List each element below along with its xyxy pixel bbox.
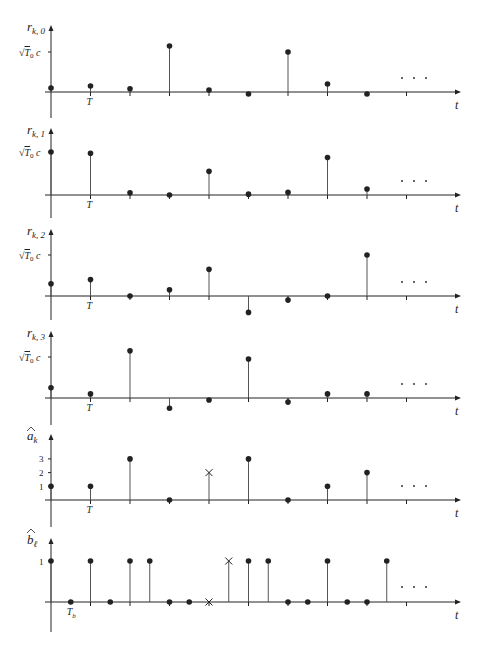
y-tick-label: √T0 c (19, 250, 41, 263)
sample-dot (384, 558, 390, 564)
sample-dot (167, 287, 173, 293)
sample-dot (186, 599, 192, 605)
y-axis-arrow-icon (49, 128, 54, 134)
ellipsis-dot (413, 586, 415, 588)
sample-dot (246, 310, 252, 316)
sample-dot (364, 91, 370, 97)
sample-dot (285, 297, 291, 303)
sample-dot (68, 599, 74, 605)
ellipsis-dot (401, 485, 403, 487)
sample-dot (127, 348, 133, 354)
sample-dot (48, 149, 54, 155)
ellipsis-dot (425, 180, 427, 182)
sample-dot (167, 405, 173, 411)
x-axis-label: t (455, 98, 459, 112)
y-tick-label: √T0 c (19, 352, 41, 365)
x-axis-label: t (455, 608, 459, 622)
sample-dot (167, 599, 173, 605)
sample-dot (88, 83, 94, 89)
sample-dot (206, 397, 212, 403)
ellipsis-dot (413, 485, 415, 487)
sample-dot (285, 497, 291, 503)
sample-dot (305, 599, 311, 605)
sample-dot (127, 293, 133, 299)
sample-dot (364, 470, 370, 476)
y-axis-label: rk, 3 (27, 325, 46, 342)
panel-b_hat_l: tTbbℓ1 (27, 529, 461, 632)
sample-dot (147, 558, 153, 564)
y-axis-label: rk, 0 (27, 19, 46, 36)
sample-dot (48, 385, 54, 391)
sample-dot (364, 391, 370, 397)
x-axis-arrow-icon (455, 193, 461, 198)
x-tick-label: T (87, 199, 94, 210)
sample-dot (206, 169, 212, 175)
ellipsis-dot (401, 586, 403, 588)
ellipsis-dot (413, 77, 415, 79)
y-tick-label: √T0 c (19, 47, 41, 60)
ellipsis-dot (401, 383, 403, 385)
sample-dot (364, 599, 370, 605)
y-axis-arrow-icon (49, 25, 54, 31)
sample-dot (325, 391, 331, 397)
y-axis-arrow-icon (49, 331, 54, 337)
y-axis-arrow-icon (49, 434, 54, 440)
sample-dot (48, 484, 54, 490)
y-tick-label: 1 (39, 482, 44, 492)
ellipsis-dot (401, 77, 403, 79)
sample-dot (167, 192, 173, 198)
sample-dot (88, 150, 94, 156)
x-axis-label: t (455, 302, 459, 316)
sample-dot (246, 191, 252, 197)
panel-a_hat_k: tTak123 (27, 427, 461, 527)
panel-r_k0: tTrk, 0√T0 c (19, 19, 461, 118)
sample-dot (246, 356, 252, 362)
sample-dot (325, 293, 331, 299)
ellipsis-dot (425, 485, 427, 487)
sample-dot (246, 456, 252, 462)
y-tick-label: 1 (39, 557, 44, 567)
sample-dot (88, 277, 94, 283)
x-tick-label: Tb (67, 606, 77, 620)
y-axis-label: rk, 2 (27, 223, 46, 240)
sample-dot (127, 456, 133, 462)
sample-dot (344, 599, 350, 605)
ellipsis-dot (401, 281, 403, 283)
sample-dot (88, 391, 94, 397)
ellipsis-dot (413, 281, 415, 283)
panel-r_k3: tTrk, 3√T0 c (19, 325, 461, 425)
ellipsis-dot (413, 180, 415, 182)
stem-plot-figure: tTrk, 0√T0 ctTrk, 1√T0 ctTrk, 2√T0 ctTrk… (0, 0, 483, 645)
sample-dot (325, 155, 331, 161)
sample-dot (325, 81, 331, 87)
sample-dot (167, 43, 173, 49)
sample-dot (167, 497, 173, 503)
sample-dot (48, 85, 54, 91)
sample-dot (285, 399, 291, 405)
sample-dot (127, 190, 133, 196)
sample-dot (325, 484, 331, 490)
sample-dot (107, 599, 113, 605)
sample-dot (325, 558, 331, 564)
sample-dot (265, 558, 271, 564)
sample-dot (127, 86, 133, 92)
y-axis-arrow-icon (49, 538, 54, 544)
panel-r_k1: tTrk, 1√T0 c (19, 122, 461, 218)
y-tick-label: √T0 c (19, 147, 41, 160)
x-tick-label: T (87, 504, 94, 515)
y-tick-label: 3 (39, 454, 44, 464)
panel-r_k2: tTrk, 2√T0 c (19, 223, 461, 320)
x-axis-arrow-icon (455, 294, 461, 299)
stem-plots-canvas: tTrk, 0√T0 ctTrk, 1√T0 ctTrk, 2√T0 ctTrk… (0, 0, 483, 645)
x-axis-label: t (455, 404, 459, 418)
ellipsis-dot (425, 77, 427, 79)
sample-dot (206, 87, 212, 93)
sample-dot (364, 252, 370, 258)
x-tick-label: T (87, 300, 94, 311)
x-tick-label: T (87, 96, 94, 107)
sample-dot (206, 267, 212, 273)
y-axis-label: rk, 1 (27, 122, 45, 139)
x-axis-arrow-icon (455, 498, 461, 503)
sample-dot (88, 558, 94, 564)
x-axis-arrow-icon (455, 90, 461, 95)
